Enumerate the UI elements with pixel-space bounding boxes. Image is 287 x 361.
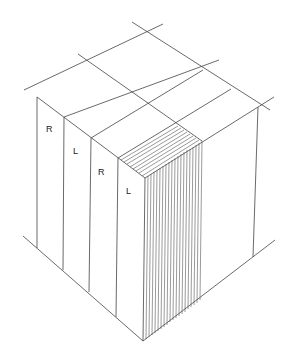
- laminate-diagram: R L R L: [0, 0, 287, 361]
- layer-label-1: R: [46, 124, 53, 134]
- top-face: [24, 22, 274, 178]
- layer-label-2: L: [73, 146, 78, 156]
- layer-label-3: R: [98, 167, 105, 177]
- hatched-face: [146, 141, 202, 339]
- layer-label-4: L: [126, 186, 131, 196]
